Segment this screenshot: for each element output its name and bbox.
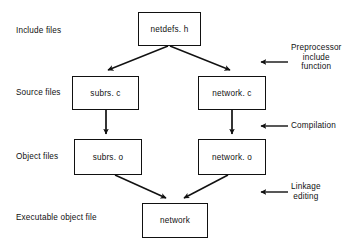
stage-label-include-files: Include files bbox=[16, 26, 61, 35]
edge-netdefs-to-subrs-c bbox=[108, 46, 168, 70]
edge-subrs-o-to-network bbox=[115, 175, 166, 198]
edge-network-o-to-network bbox=[184, 175, 228, 198]
annotation-line: function bbox=[291, 62, 342, 72]
node-subrs-o: subrs. o bbox=[74, 139, 142, 175]
annotation-line: Preprocessor bbox=[291, 43, 342, 53]
annotation-linkage-editing: Linkage editing bbox=[291, 182, 321, 201]
node-network-executable: network bbox=[142, 203, 208, 238]
compilation-flow-diagram: Include files Source files Object files … bbox=[0, 0, 342, 251]
annotation-preprocessor-include-function: Preprocessor include function bbox=[291, 43, 342, 72]
node-subrs-c: subrs. c bbox=[72, 76, 139, 110]
annotation-line: editing bbox=[291, 192, 321, 202]
annotation-line: include bbox=[291, 53, 342, 63]
node-network-c: network. c bbox=[198, 76, 266, 110]
edge-netdefs-to-network-c bbox=[170, 46, 230, 70]
annotation-line: Compilation bbox=[291, 121, 336, 131]
node-netdefs-h: netdefs. h bbox=[138, 12, 201, 46]
annotation-line: Linkage bbox=[291, 182, 321, 192]
stage-label-object-files: Object files bbox=[16, 152, 58, 161]
stage-label-source-files: Source files bbox=[16, 88, 61, 97]
stage-label-executable-object-file: Executable object file bbox=[16, 213, 97, 222]
node-network-o: network. o bbox=[198, 139, 266, 175]
annotation-compilation: Compilation bbox=[291, 121, 336, 131]
